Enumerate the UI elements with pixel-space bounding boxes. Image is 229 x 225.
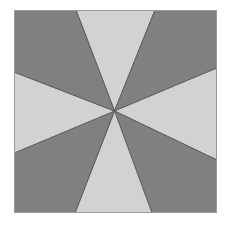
- wedge-pattern-svg: [14, 10, 217, 213]
- wedge-group: [14, 10, 217, 213]
- screenshot-canvas: [0, 0, 229, 225]
- wedge-pattern-figure: [14, 10, 217, 213]
